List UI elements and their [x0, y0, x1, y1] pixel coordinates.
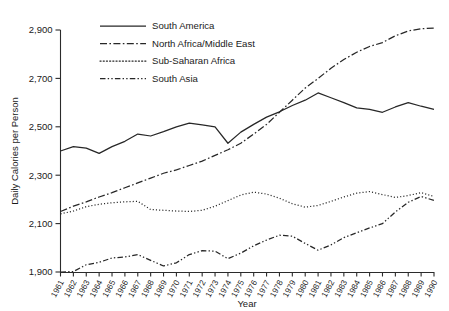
y-axis-group: 1,9002,1002,3002,5002,7002,900 Daily Cal… [9, 24, 61, 277]
calories-line-chart: 1,9002,1002,3002,5002,7002,900 Daily Cal… [0, 0, 449, 311]
x-tick-labels: 1961196219631964196519661967196819691970… [49, 278, 439, 299]
legend-label-3: South Asia [152, 73, 199, 84]
y-tick-label: 2,500 [29, 121, 53, 132]
y-tick-label: 2,300 [29, 170, 53, 181]
series-line-2 [61, 192, 435, 214]
x-axis-group: 1961196219631964196519661967196819691970… [49, 272, 439, 309]
x-tick-label: 1990 [423, 278, 440, 299]
series-line-3 [61, 197, 435, 273]
legend-label-2: Sub-Saharan Africa [152, 55, 236, 66]
series-line-1 [61, 28, 435, 211]
y-tick-label: 2,100 [29, 218, 53, 229]
series-group [61, 28, 435, 272]
chart-legend: South AmericaNorth Africa/Middle EastSub… [100, 20, 255, 84]
y-tick-label: 1,900 [29, 266, 53, 277]
legend-label-0: South America [152, 20, 215, 31]
y-tick-labels: 1,9002,1002,3002,5002,7002,900 [29, 24, 53, 277]
y-axis-title: Daily Calories per Person [9, 97, 20, 205]
y-tick-label: 2,700 [29, 73, 53, 84]
y-tick-label: 2,900 [29, 24, 53, 35]
chart-svg: 1,9002,1002,3002,5002,7002,900 Daily Cal… [0, 0, 449, 311]
legend-label-1: North Africa/Middle East [152, 38, 255, 49]
y-tick-group [56, 30, 61, 272]
series-line-0 [61, 93, 435, 154]
x-axis-title: Year [237, 298, 256, 309]
